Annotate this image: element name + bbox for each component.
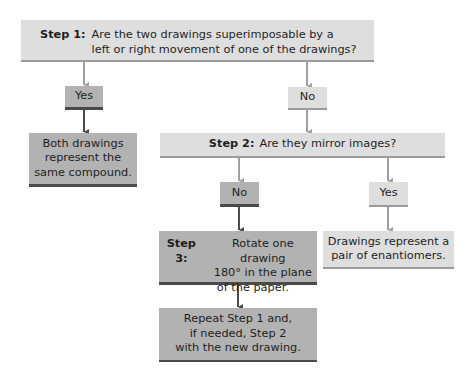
step3-text: Rotate one drawing 180° in the plane of … [209,237,317,295]
step1-label: Step 1: [40,28,86,43]
same-compound-line3: same compound. [34,166,132,181]
step3-line1: Rotate one drawing [209,237,317,266]
step1-box: Step 1: Are the two drawings superimposa… [21,20,374,62]
repeat-line3: with the new drawing. [175,341,301,356]
enantiomers-line1: Drawings represent a [328,235,449,250]
step2-no-label: No [232,186,247,201]
repeat-box: Repeat Step 1 and, if needed, Step 2 wit… [159,308,317,362]
step2-no-box: No [220,182,259,207]
step1-line2: left or right movement of one of the dra… [92,43,357,58]
enantiomers-box: Drawings represent a pair of enantiomers… [323,231,454,269]
step3-label: Step 3: [159,237,204,266]
step1-question: Are the two drawings superimposable by a… [92,28,357,57]
enantiomers-line2: pair of enantiomers. [331,249,446,264]
repeat-line2: if needed, Step 2 [190,327,287,342]
same-compound-line1: Both drawings [42,137,123,152]
step2-yes-box: Yes [369,182,408,207]
step2-label: Step 2: [209,137,255,152]
step1-no-label: No [300,90,315,105]
step1-yes-box: Yes [65,86,103,110]
step2-box: Step 2: Are they mirror images? [160,133,445,158]
step3-line3: of the paper. [217,281,289,296]
step1-line1: Are the two drawings superimposable by a [92,28,357,43]
same-compound-box: Both drawings represent the same compoun… [29,133,137,187]
step3-box: Step 3: Rotate one drawing 180° in the p… [159,231,317,285]
step1-no-box: No [288,87,327,110]
step3-line2: 180° in the plane [214,266,312,281]
same-compound-line2: represent the [45,151,121,166]
step2-yes-label: Yes [379,186,397,201]
repeat-line1: Repeat Step 1 and, [184,312,292,327]
step2-question: Are they mirror images? [259,137,396,152]
step1-yes-label: Yes [75,89,93,104]
